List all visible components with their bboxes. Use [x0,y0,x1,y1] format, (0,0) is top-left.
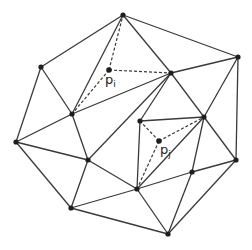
diagram-svg: pi pj [0,0,252,250]
vertex-J [168,70,173,75]
edge-D-J [72,73,171,114]
edge-C-E [16,142,88,160]
edge-K-L [140,117,204,121]
dashed-edge-pj-K [140,121,159,141]
vertex-C [13,139,18,144]
label-pi: pi [105,72,116,89]
vertex-F [68,205,73,210]
vertex-D [69,111,74,116]
vertex-K [137,118,142,123]
edge-J-L [171,73,204,117]
edge-G-H [168,160,236,234]
edge-E-M [88,160,137,189]
edge-I-L [204,57,238,117]
vertex-I [235,54,240,59]
edge-A-B [41,15,123,67]
dashed-edge-pj-L [159,117,204,141]
solid-edges [16,15,238,234]
edge-I-J [171,57,238,73]
edge-D-E [72,114,88,160]
edge-K-M [137,121,140,189]
vertex-B [38,64,43,69]
vertex-E [85,157,90,162]
dashed-edge-pi-D [72,70,109,114]
edge-J-K [140,73,171,121]
edge-N-H [192,160,236,172]
edge-H-I [236,57,238,160]
vertex-L [201,114,206,119]
edge-N-G [168,172,192,234]
vertex-G [165,231,170,236]
dashed-edge-pj-M [137,141,159,189]
vertex-A [120,12,125,17]
edge-F-M [71,189,137,208]
vertex-N [189,169,194,174]
dashed-edge-pi-J [109,70,171,73]
vertex-M [134,186,139,191]
vertex-H [233,157,238,162]
edge-E-J [88,73,171,160]
label-pj: pj [160,142,171,159]
edge-C-F [16,142,71,208]
edge-L-H [204,117,236,160]
triangulation-diagram: pi pj [0,0,252,250]
edge-B-D [41,67,72,114]
edge-L-N [192,117,204,172]
edge-E-F [71,160,88,208]
edge-A-D [72,15,123,114]
point-labels: pi pj [105,72,171,159]
